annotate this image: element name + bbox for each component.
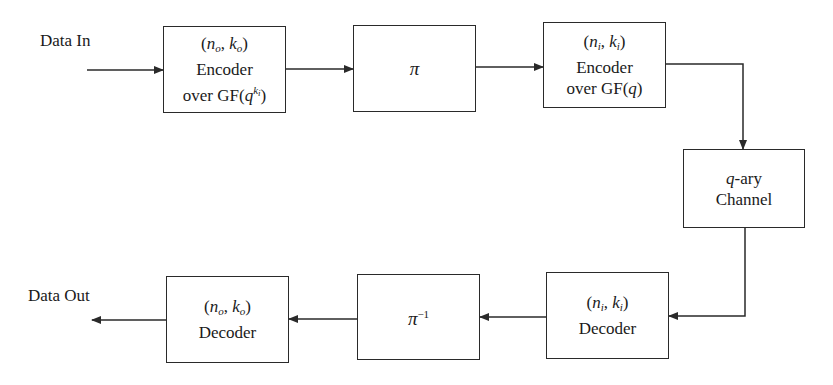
channel-title: Channel bbox=[716, 189, 773, 210]
outer-decoder-block: (no, ko) Decoder bbox=[166, 276, 289, 363]
deinterleaver-block: π−1 bbox=[357, 274, 480, 360]
outer-encoder-title: Encoder bbox=[196, 59, 253, 80]
data-in-label: Data In bbox=[40, 31, 91, 51]
outer-encoder-block: (no, ko) Encoder over GF(qki) bbox=[163, 26, 286, 113]
inner-encoder-title: Encoder bbox=[576, 57, 633, 78]
inner-decoder-title: Decoder bbox=[579, 318, 637, 339]
arrow-inner-encoder-to-channel bbox=[666, 64, 743, 149]
arrow-channel-to-inner-decoder bbox=[669, 228, 745, 316]
inner-decoder-block: (ni, ki) Decoder bbox=[546, 272, 669, 359]
channel-type: q-ary bbox=[726, 168, 762, 189]
inner-decoder-params: (ni, ki) bbox=[586, 292, 628, 318]
outer-decoder-params: (no, ko) bbox=[204, 296, 251, 322]
inner-encoder-params: (ni, ki) bbox=[583, 31, 625, 57]
interleaver-symbol: π bbox=[410, 58, 420, 79]
channel-block: q-ary Channel bbox=[683, 149, 805, 228]
interleaver-block: π bbox=[353, 25, 476, 112]
inner-encoder-block: (ni, ki) Encoder over GF(q) bbox=[543, 22, 666, 108]
outer-encoder-field: over GF(qki) bbox=[183, 80, 266, 106]
inner-encoder-field: over GF(q) bbox=[566, 78, 642, 99]
outer-encoder-params: (no, ko) bbox=[201, 33, 248, 59]
outer-decoder-title: Decoder bbox=[199, 322, 257, 343]
data-out-label: Data Out bbox=[28, 286, 90, 306]
deinterleaver-symbol: π−1 bbox=[408, 304, 429, 330]
